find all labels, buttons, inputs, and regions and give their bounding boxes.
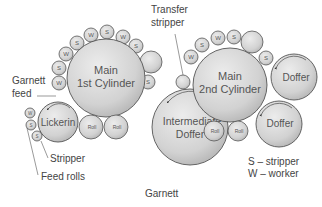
legend-s: S – stripper bbox=[248, 156, 300, 167]
lickerin-label: Lickerin bbox=[41, 117, 75, 128]
main-1st-label-2: 1st Cylinder bbox=[77, 77, 135, 89]
diagram-title: Garnett bbox=[145, 188, 179, 199]
svg-text:Doffer: Doffer bbox=[282, 72, 310, 83]
svg-text:S: S bbox=[264, 55, 268, 61]
svg-text:S: S bbox=[146, 79, 150, 85]
svg-text:W: W bbox=[188, 54, 194, 60]
svg-text:S: S bbox=[134, 43, 138, 49]
stripper-label: Stripper bbox=[50, 153, 86, 164]
svg-text:W: W bbox=[120, 34, 126, 40]
transfer-stripper-label-1: Transfer bbox=[151, 4, 189, 15]
svg-text:Roll: Roll bbox=[88, 124, 97, 130]
svg-text:W: W bbox=[63, 51, 69, 57]
transfer-stripper-label-2: stripper bbox=[151, 17, 185, 28]
svg-text:Roll: Roll bbox=[113, 124, 122, 130]
legend-w: W – worker bbox=[248, 168, 299, 179]
transfer-stripper-roller bbox=[176, 75, 190, 89]
svg-text:W: W bbox=[215, 35, 221, 41]
garnett-feed-label-1: Garnett bbox=[12, 75, 46, 86]
diagram-canvas: W S W S W S W S S Main 1st Cylinder W S … bbox=[0, 0, 322, 207]
main-1st-label-1: Main bbox=[94, 64, 118, 76]
feed-rolls-label: Feed rolls bbox=[41, 171, 85, 182]
svg-text:S: S bbox=[35, 134, 38, 139]
svg-text:Roll: Roll bbox=[211, 128, 220, 134]
svg-text:Roll: Roll bbox=[235, 128, 244, 134]
svg-text:W: W bbox=[88, 32, 94, 38]
svg-text:S: S bbox=[232, 34, 236, 40]
svg-text:Doffer: Doffer bbox=[266, 118, 294, 129]
svg-text:S: S bbox=[200, 42, 204, 48]
svg-text:Main: Main bbox=[218, 70, 242, 82]
svg-text:S: S bbox=[29, 123, 32, 128]
svg-text:W: W bbox=[56, 80, 62, 86]
garnett-feed-label-2: feed bbox=[12, 88, 31, 99]
svg-text:2nd Cylinder: 2nd Cylinder bbox=[199, 83, 261, 95]
svg-text:S: S bbox=[105, 29, 109, 35]
svg-text:S: S bbox=[57, 65, 61, 71]
intermediate-label-2: Doffer bbox=[176, 128, 205, 140]
garnett-diagram: W S W S W S W S S Main 1st Cylinder W S … bbox=[0, 0, 322, 207]
svg-text:S: S bbox=[75, 40, 79, 46]
